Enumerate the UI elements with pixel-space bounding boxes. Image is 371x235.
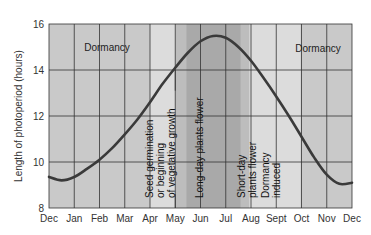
seed-note-line-1: Seed germination [144,120,155,198]
month-label: Oct [294,213,310,224]
y-tick-label: 10 [33,157,45,168]
dormancy-left-label: Dormancy [84,42,130,53]
month-label: Dec [40,213,58,224]
y-tick-label: 12 [33,111,45,122]
long-day-note: Long-day plants flower [194,97,205,198]
y-axis-ticks: 810121416 [33,19,45,214]
month-label: Jan [66,213,82,224]
x-axis-month-labels: DecJanFebMarAprMayJunJulAugSeptOctNovDec [40,213,361,224]
month-label: Sept [266,213,287,224]
short-day-line-1: Short-day [236,155,247,198]
month-label: Mar [116,213,134,224]
month-label: Jul [219,213,232,224]
dormancy-induced-line-1: Dormancy [260,152,271,198]
dormancy-induced-line-2: induced [271,163,282,198]
y-tick-label: 16 [33,19,45,30]
month-label: May [166,213,185,224]
photoperiod-chart: 810121416 DecJanFebMarAprMayJunJulAugSep… [0,0,371,235]
month-label: Nov [318,213,336,224]
short-day-line-2: plants flower [247,141,258,198]
dormancy-right-label: Dormancy [295,43,341,54]
y-tick-label: 8 [38,203,44,214]
month-label: Apr [142,213,158,224]
month-label: Feb [91,213,109,224]
seed-note-line-3: of vegetative growth [166,109,177,199]
seed-note-line-2: or beginning [155,143,166,198]
month-label: Jun [192,213,208,224]
y-tick-label: 14 [33,65,45,76]
y-axis-label: Length of photoperiod (hours) [13,50,24,182]
month-label: Aug [242,213,260,224]
month-label: Dec [343,213,361,224]
